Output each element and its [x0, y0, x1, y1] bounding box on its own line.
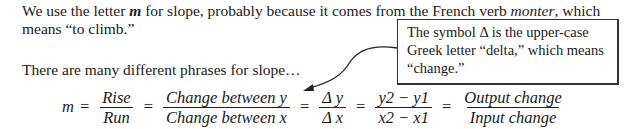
fraction-delta: Δ y Δ x [319, 88, 346, 127]
paragraph-slope-phrases: There are many different phrases for slo… [22, 61, 301, 79]
numerator: Rise [99, 88, 133, 107]
equals-sign: = [144, 97, 153, 117]
numerator: y2 − y1 [375, 88, 432, 107]
numerator: Output change [461, 88, 565, 107]
denominator: x2 − x1 [375, 107, 432, 127]
equals-sign: = [300, 97, 309, 117]
equation-lhs: m [62, 97, 74, 117]
denominator: Input change [467, 107, 560, 127]
denominator: Run [100, 107, 133, 127]
equals-sign: = [356, 97, 365, 117]
denominator: Δ x [319, 107, 346, 127]
equals-sign: = [442, 97, 451, 117]
equals-sign: = [80, 97, 89, 117]
fraction-change-between: Change between y Change between x [163, 88, 290, 127]
numerator: Δ y [319, 88, 346, 107]
fraction-coordinates: y2 − y1 x2 − x1 [375, 88, 432, 127]
denominator: Change between x [163, 107, 290, 127]
fraction-rise-run: Rise Run [99, 88, 133, 127]
fraction-output-input: Output change Input change [461, 88, 565, 127]
slope-equation: m = Rise Run = Change between y Change b… [62, 87, 569, 127]
numerator: Change between y [163, 88, 290, 107]
